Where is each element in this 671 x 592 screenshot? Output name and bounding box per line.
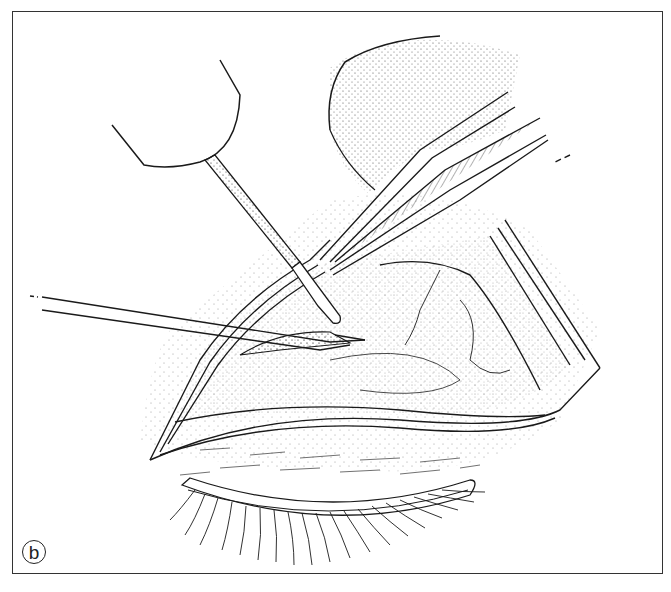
panel-label-text: b — [29, 543, 40, 562]
operator-finger — [112, 60, 240, 167]
finger-tip — [329, 36, 520, 195]
panel-label: b — [22, 540, 46, 564]
eyelashes — [170, 478, 485, 565]
surgical-illustration — [0, 0, 671, 592]
